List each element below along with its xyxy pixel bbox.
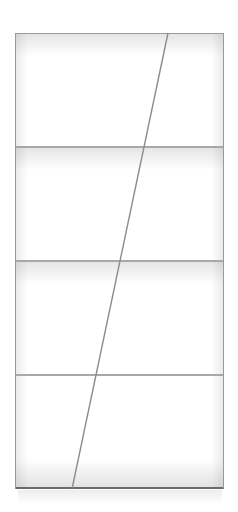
diagonal-divider	[0, 0, 238, 512]
